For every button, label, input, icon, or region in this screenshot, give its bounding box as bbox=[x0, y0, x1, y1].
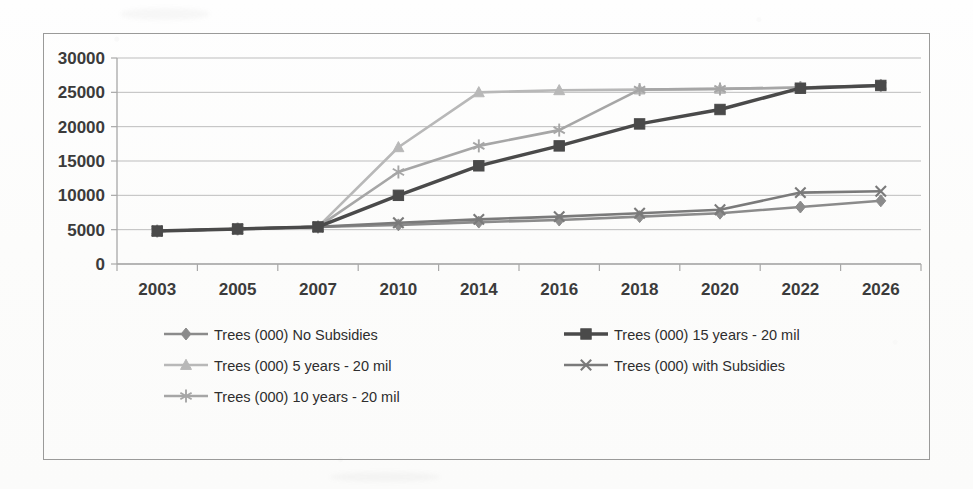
data-point-marker-diamond bbox=[181, 328, 191, 340]
x-axis-tick-label: 2003 bbox=[138, 280, 176, 299]
data-point-marker-diamond bbox=[876, 195, 886, 207]
x-axis-tick-label: 2005 bbox=[219, 280, 257, 299]
chart-page: 0500010000150002000025000300002003200520… bbox=[0, 0, 973, 489]
series-polyline bbox=[157, 191, 881, 231]
line-chart: 0500010000150002000025000300002003200520… bbox=[44, 34, 931, 461]
x-axis-tick-label: 2007 bbox=[299, 280, 337, 299]
data-point-marker-square bbox=[634, 119, 644, 129]
x-axis-tick-label: 2010 bbox=[379, 280, 417, 299]
x-axis-tick-label: 2016 bbox=[540, 280, 578, 299]
plot-area: 0500010000150002000025000300002003200520… bbox=[44, 34, 931, 461]
y-axis-tick-label: 25000 bbox=[58, 83, 105, 102]
data-point-marker-square bbox=[581, 329, 591, 339]
x-axis-tick-label: 2020 bbox=[701, 280, 739, 299]
data-point-marker-square bbox=[393, 190, 403, 200]
legend-item[interactable]: Trees (000) No Subsidies bbox=[164, 327, 378, 343]
data-point-marker-square bbox=[795, 83, 805, 93]
legend-item-label: Trees (000) with Subsidies bbox=[614, 358, 785, 374]
scan-smudge bbox=[120, 8, 210, 20]
y-axis-tick-label: 0 bbox=[96, 255, 105, 274]
x-axis-tick-label: 2022 bbox=[781, 280, 819, 299]
data-point-marker-square bbox=[554, 141, 564, 151]
y-axis-tick-label: 15000 bbox=[58, 152, 105, 171]
series-polyline bbox=[157, 201, 881, 231]
x-axis: 2003200520072010201420162018202020222026 bbox=[117, 264, 921, 299]
x-axis-tick-label: 2026 bbox=[862, 280, 900, 299]
legend-item[interactable]: Trees (000) 15 years - 20 mil bbox=[564, 327, 800, 343]
legend-item-label: Trees (000) 10 years - 20 mil bbox=[214, 389, 400, 405]
chart-legend: Trees (000) No SubsidiesTrees (000) 15 y… bbox=[164, 327, 800, 405]
series-line bbox=[152, 80, 887, 236]
data-point-marker-square bbox=[876, 80, 886, 90]
series-line bbox=[152, 80, 886, 236]
data-point-marker-square bbox=[313, 222, 323, 232]
data-point-marker-square bbox=[474, 161, 484, 171]
data-point-marker-diamond bbox=[795, 201, 805, 213]
legend-item-label: Trees (000) No Subsidies bbox=[214, 327, 378, 343]
series-line bbox=[152, 79, 887, 238]
data-point-marker-square bbox=[232, 224, 242, 234]
legend-item[interactable]: Trees (000) with Subsidies bbox=[564, 358, 785, 374]
x-axis-tick-label: 2018 bbox=[621, 280, 659, 299]
chart-border: 0500010000150002000025000300002003200520… bbox=[43, 33, 930, 460]
data-point-marker-square bbox=[152, 226, 162, 236]
y-axis-tick-label: 10000 bbox=[58, 186, 105, 205]
data-point-marker-triangle bbox=[393, 142, 404, 152]
data-point-marker-square bbox=[715, 104, 725, 114]
y-axis-tick-label: 30000 bbox=[58, 49, 105, 68]
y-axis-tick-label: 5000 bbox=[67, 221, 105, 240]
legend-item[interactable]: Trees (000) 10 years - 20 mil bbox=[164, 389, 400, 405]
y-axis-tick-label: 20000 bbox=[58, 118, 105, 137]
x-axis-tick-label: 2014 bbox=[460, 280, 498, 299]
scan-smudge bbox=[330, 472, 440, 482]
legend-item[interactable]: Trees (000) 5 years - 20 mil bbox=[164, 358, 392, 374]
series-line bbox=[152, 195, 885, 237]
legend-item-label: Trees (000) 5 years - 20 mil bbox=[214, 358, 392, 374]
legend-item-label: Trees (000) 15 years - 20 mil bbox=[614, 327, 800, 343]
